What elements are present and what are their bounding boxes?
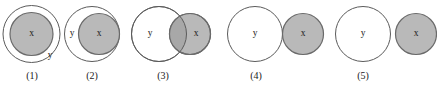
figure-canvas: x y (1) x y (2) x y (3) xyxy=(0,0,437,87)
panel-1-caption: (1) xyxy=(26,70,38,82)
panel-3-caption: (3) xyxy=(157,70,169,82)
panel-3: x y (3) xyxy=(132,7,211,83)
panel-4: x y (4) xyxy=(228,7,324,83)
panel-5-x-label: x xyxy=(414,28,419,38)
panel-2: x y (2) xyxy=(65,7,120,83)
panel-4-caption: (4) xyxy=(250,70,262,82)
panel-2-caption: (2) xyxy=(86,70,98,82)
set-relation-figure: x y (1) x y (2) x y (3) xyxy=(0,0,437,87)
panel-5-caption: (5) xyxy=(357,70,369,82)
panel-1-x-label: x xyxy=(29,28,34,38)
panel-1: x y (1) xyxy=(3,6,60,83)
panel-4-x-label: x xyxy=(301,28,306,38)
panel-1-y-label: y xyxy=(48,50,53,60)
panel-3-y-label: y xyxy=(148,28,153,38)
panel-2-x-label: x xyxy=(97,28,102,38)
panel-2-y-label: y xyxy=(70,28,75,38)
panel-3-x-label: x xyxy=(194,28,199,38)
panel-5: x y (5) xyxy=(336,7,437,83)
panel-4-y-label: y xyxy=(253,28,258,38)
panel-5-y-label: y xyxy=(361,28,366,38)
